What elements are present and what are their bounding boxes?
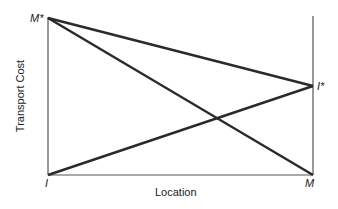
point-label-m-star: M* [30,12,43,24]
point-label-i-star: I* [317,80,324,92]
line-i-istar [48,86,313,175]
diagram-canvas [0,0,338,209]
x-axis-label: Location [155,186,197,198]
line-mstar-istar [48,18,313,86]
line-mstar-m [48,18,313,175]
point-label-m: M [305,177,314,189]
point-label-i: I [45,177,48,189]
y-axis-label: Transport Cost [14,60,26,132]
